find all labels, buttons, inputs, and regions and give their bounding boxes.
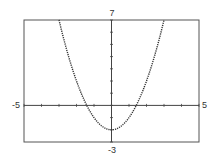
ymax-label: 7 [109, 8, 114, 18]
xmax-label: 5 [202, 100, 207, 110]
graph-window: 7 -3 -5 5 [0, 0, 215, 161]
ymin-label: -3 [108, 145, 116, 155]
axes [24, 20, 199, 142]
xmin-label: -5 [12, 100, 20, 110]
